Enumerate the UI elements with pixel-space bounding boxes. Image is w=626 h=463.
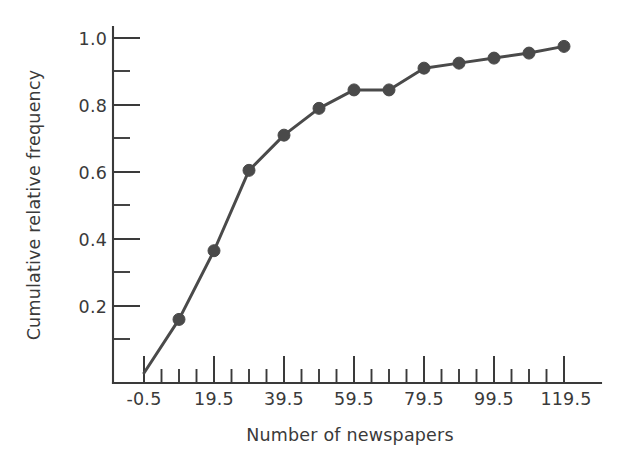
y-tick-label: 1.0 <box>79 29 107 49</box>
series-markers <box>173 40 570 325</box>
data-point <box>558 40 570 52</box>
y-axis-ticks <box>113 38 140 339</box>
data-point <box>488 52 500 64</box>
x-tick-label: 39.5 <box>264 389 304 409</box>
data-point <box>348 84 360 96</box>
y-tick-label: 0.8 <box>79 96 107 116</box>
x-tick-label: 119.5 <box>540 389 591 409</box>
data-point <box>313 102 325 114</box>
data-point <box>243 164 255 176</box>
x-tick-label: 59.5 <box>334 389 374 409</box>
y-axis-tick-labels: 1.0 0.8 0.6 0.4 0.2 <box>79 29 107 317</box>
x-tick-label: 79.5 <box>404 389 444 409</box>
cumulative-frequency-line-chart: 1.0 0.8 0.6 0.4 0.2 <box>0 0 626 463</box>
data-point <box>523 47 535 59</box>
chart-figure: 1.0 0.8 0.6 0.4 0.2 <box>0 0 626 463</box>
x-axis-title: Number of newspapers <box>246 425 454 445</box>
x-tick-label: 19.5 <box>194 389 234 409</box>
data-point <box>208 245 220 257</box>
y-tick-label: 0.6 <box>79 163 107 183</box>
x-tick-label: -0.5 <box>127 389 162 409</box>
data-point <box>278 129 290 141</box>
x-axis-ticks <box>144 356 564 383</box>
data-point <box>453 57 465 69</box>
y-axis-title: Cumulative relative frequency <box>24 70 44 341</box>
y-tick-label: 0.2 <box>79 297 107 317</box>
data-point <box>418 62 430 74</box>
data-point <box>383 84 395 96</box>
x-axis-tick-labels: -0.5 19.5 39.5 59.5 79.5 99.5 119.5 <box>127 389 592 409</box>
data-series <box>144 40 570 373</box>
data-point <box>173 313 185 325</box>
x-tick-label: 99.5 <box>474 389 514 409</box>
axes <box>113 27 601 383</box>
y-tick-label: 0.4 <box>79 230 107 250</box>
